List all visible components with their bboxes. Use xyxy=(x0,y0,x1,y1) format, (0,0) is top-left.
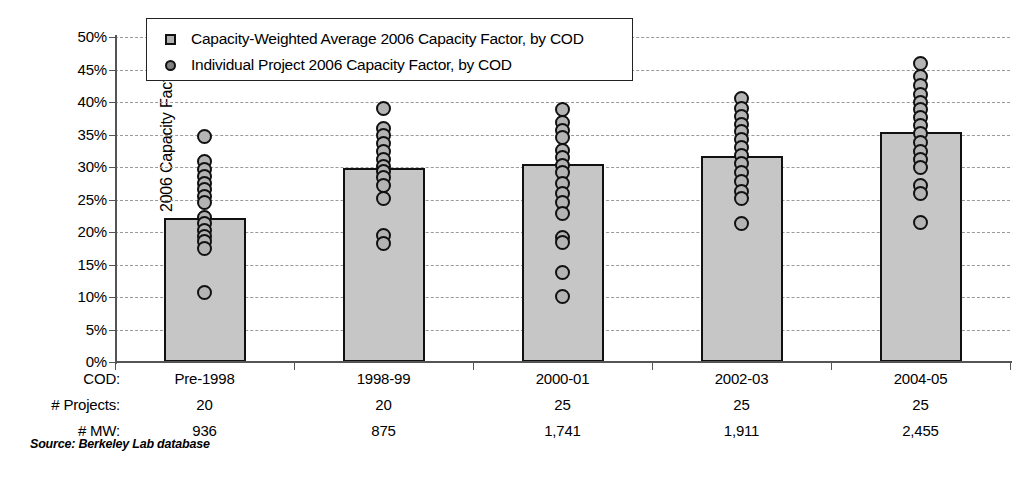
table-cell-cod-4: 2004-05 xyxy=(856,370,986,387)
row-label-projects: # Projects: xyxy=(10,396,120,413)
table-cell-projects-3: 25 xyxy=(677,396,807,413)
x-axis-line xyxy=(115,361,1012,363)
x-axis-separator xyxy=(115,361,116,370)
legend-item-individual-project: Individual Project 2006 Capacity Factor,… xyxy=(165,52,632,78)
table-cell-mw-3: 1,911 xyxy=(677,422,807,439)
legend-square-icon xyxy=(165,34,191,45)
data-point xyxy=(555,265,570,280)
y-axis-tick-label: 30% xyxy=(17,159,107,174)
y-axis-tick-label: 35% xyxy=(17,127,107,142)
legend: Capacity-Weighted Average 2006 Capacity … xyxy=(146,18,633,81)
data-point xyxy=(734,216,749,231)
table-cell-projects-1: 20 xyxy=(319,396,449,413)
x-axis-separator xyxy=(652,361,653,370)
x-axis-separator xyxy=(831,361,832,370)
data-point xyxy=(197,285,212,300)
data-point xyxy=(376,101,391,116)
y-axis-tick-label: 10% xyxy=(17,289,107,304)
legend-label-1: Individual Project 2006 Capacity Factor,… xyxy=(191,56,512,74)
x-axis-separator xyxy=(473,361,474,370)
table-cell-mw-1: 875 xyxy=(319,422,449,439)
data-point xyxy=(555,235,570,250)
data-point xyxy=(376,191,391,206)
table-cell-cod-1: 1998-99 xyxy=(319,370,449,387)
row-label-cod: COD: xyxy=(10,370,120,387)
table-cell-cod-2: 2000-01 xyxy=(498,370,628,387)
y-axis-line xyxy=(115,35,117,364)
table-cell-mw-2: 1,741 xyxy=(498,422,628,439)
data-point xyxy=(555,289,570,304)
chart-figure: 2006 Capacity Factor 50%45%40%35%30%25%2… xyxy=(0,0,1023,478)
y-axis-tick-label: 50% xyxy=(17,29,107,44)
y-axis-tick-label: 20% xyxy=(17,224,107,239)
y-axis-tick-label: 0% xyxy=(17,354,107,369)
data-point xyxy=(197,195,212,210)
y-axis-tick-label: 5% xyxy=(17,322,107,337)
table-cell-mw-4: 2,455 xyxy=(856,422,986,439)
legend-label-0: Capacity-Weighted Average 2006 Capacity … xyxy=(191,30,584,48)
data-point xyxy=(913,215,928,230)
table-cell-projects-0: 20 xyxy=(140,396,270,413)
source-note: Source: Berkeley Lab database xyxy=(30,437,210,451)
table-cell-projects-2: 25 xyxy=(498,396,628,413)
plot-area: 2006 Capacity Factor xyxy=(115,37,1010,362)
y-axis-tick-label: 25% xyxy=(17,192,107,207)
table-cell-cod-3: 2002-03 xyxy=(677,370,807,387)
x-axis-separator xyxy=(294,361,295,370)
table-cell-projects-4: 25 xyxy=(856,396,986,413)
table-cell-cod-0: Pre-1998 xyxy=(140,370,270,387)
x-axis-separator xyxy=(1010,361,1011,370)
y-axis-tick-label: 15% xyxy=(17,257,107,272)
y-axis-tick-label: 45% xyxy=(17,62,107,77)
legend-item-capacity-weighted-average: Capacity-Weighted Average 2006 Capacity … xyxy=(165,26,632,52)
data-point xyxy=(197,129,212,144)
y-axis-tick-label: 40% xyxy=(17,94,107,109)
legend-circle-icon xyxy=(165,60,191,71)
